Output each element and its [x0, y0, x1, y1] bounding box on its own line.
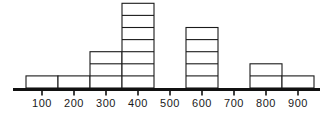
- x-axis-tick-label: 900: [288, 98, 308, 109]
- histogram-bar: [250, 64, 282, 88]
- histogram-figure: 100200300400500600700800900: [0, 0, 333, 114]
- x-axis-tick-label: 100: [32, 98, 52, 109]
- histogram-bar-outline: [122, 3, 154, 88]
- histogram-bar: [186, 28, 218, 89]
- x-axis-tick-label: 600: [192, 98, 212, 109]
- histogram-bar: [26, 76, 58, 88]
- histogram-bar-outline: [186, 28, 218, 89]
- x-axis-tick-label: 200: [64, 98, 84, 109]
- histogram-bar: [122, 3, 154, 88]
- histogram-bar: [90, 52, 122, 88]
- bars-layer: [26, 3, 314, 88]
- histogram-bar-outline: [282, 76, 314, 88]
- histogram-bar-outline: [26, 76, 58, 88]
- histogram-bar: [58, 76, 90, 88]
- x-axis-tick-label: 800: [256, 98, 276, 109]
- histogram-bar-outline: [90, 52, 122, 88]
- x-axis-tick-label: 500: [160, 98, 180, 109]
- histogram-bar: [282, 76, 314, 88]
- x-axis-tick-label: 400: [128, 98, 148, 109]
- x-axis-layer: [13, 90, 320, 96]
- x-axis-tick-label: 300: [96, 98, 116, 109]
- histogram-bar-outline: [58, 76, 90, 88]
- x-axis-ticks: [42, 91, 298, 96]
- x-axis-tick-label: 700: [224, 98, 244, 109]
